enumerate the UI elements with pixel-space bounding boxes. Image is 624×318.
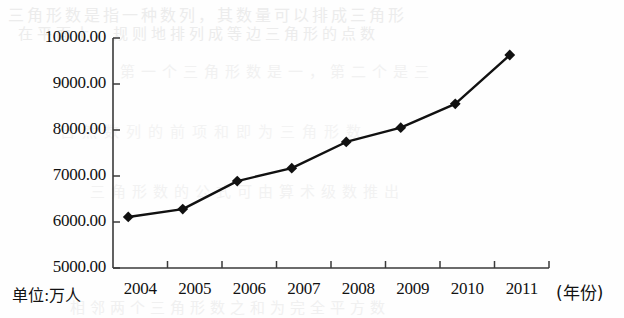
y-axis-tick-label: 7000.00 [6, 165, 106, 185]
x-axis-tick-label: 2005 [165, 279, 225, 299]
series-line [128, 55, 510, 217]
x-axis-tick-label: 2010 [437, 279, 497, 299]
chart-page: 三角形数是指一种数列，其数量可以排成三角形 在平面上，规则地排列成等边三角形的点… [0, 0, 624, 318]
y-axis-tick-label: 8000.00 [6, 119, 106, 139]
data-point-marker[interactable] [286, 163, 297, 174]
data-point-marker[interactable] [123, 212, 134, 223]
data-point-marker[interactable] [232, 176, 243, 187]
data-point-marker[interactable] [341, 137, 352, 148]
x-axis-tick-label: 2009 [383, 279, 443, 299]
x-axis-caption: (年份) [556, 279, 603, 304]
y-axis-tick-label: 5000.00 [6, 257, 106, 277]
x-axis-tick-label: 2008 [328, 279, 388, 299]
y-axis-tick-label: 9000.00 [6, 73, 106, 93]
x-axis-tick-label: 2011 [492, 279, 552, 299]
data-point-marker[interactable] [395, 122, 406, 133]
data-point-marker[interactable] [177, 204, 188, 215]
y-axis-tick-label: 10000.00 [6, 27, 106, 47]
y-axis-unit-caption: 单位:万人 [12, 282, 81, 306]
x-axis-tick-label: 2007 [274, 279, 334, 299]
x-axis-tick-label: 2006 [219, 279, 279, 299]
x-axis-tick-label: 2004 [110, 279, 170, 299]
y-axis-tick-label: 6000.00 [6, 211, 106, 231]
